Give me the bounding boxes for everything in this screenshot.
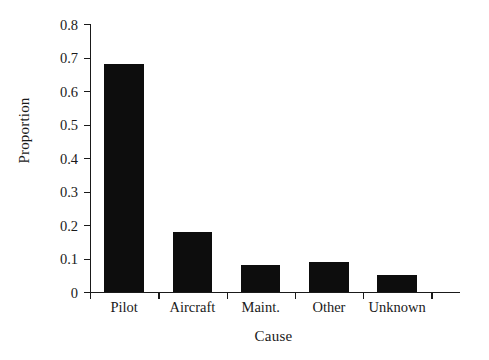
y-tick: 0.8: [84, 24, 90, 25]
bar-aircraft: [173, 232, 213, 292]
bar-unknown: [377, 275, 417, 292]
x-tick: [90, 292, 91, 299]
x-axis-line: [85, 292, 460, 293]
y-tick-label: 0.8: [60, 17, 78, 32]
x-axis-label: Unknown: [363, 300, 431, 315]
x-axis-label: Aircraft: [158, 300, 226, 315]
y-tick-label: 0.4: [60, 151, 78, 166]
plot-area: 00.10.20.30.40.50.60.70.8 PilotAircraftM…: [90, 24, 460, 292]
y-tick-label: 0.7: [60, 51, 78, 66]
x-axis-label: Maint.: [227, 300, 295, 315]
x-axis-label: Pilot: [90, 300, 158, 315]
y-tick: 0.4: [84, 158, 90, 159]
bar-pilot: [104, 64, 144, 292]
y-axis-line: [90, 24, 91, 292]
y-tick: 0.2: [84, 225, 90, 226]
y-tick-label: 0.5: [60, 118, 78, 133]
x-tick: [363, 292, 364, 299]
bar-chart: Proportion 00.10.20.30.40.50.60.70.8 Pil…: [0, 0, 489, 360]
x-axis-title-text: Cause: [196, 328, 292, 345]
y-tick-label: 0.1: [60, 252, 78, 267]
y-tick: 0.6: [84, 91, 90, 92]
y-tick-label: 0.3: [60, 185, 78, 200]
y-tick: 0.5: [84, 125, 90, 126]
x-axis-title: Cause: [0, 328, 489, 345]
y-tick: 0.3: [84, 192, 90, 193]
y-tick-label: 0.6: [60, 84, 78, 99]
y-tick: 0.1: [84, 259, 90, 260]
y-tick: 0.7: [84, 58, 90, 59]
x-tick: [431, 292, 432, 299]
bar-other: [309, 262, 349, 292]
x-tick: [295, 292, 296, 299]
x-tick: [158, 292, 159, 299]
y-axis-title: Proportion: [16, 71, 33, 191]
x-tick: [227, 292, 228, 299]
bar-maint: [241, 265, 281, 292]
y-tick-label: 0.2: [60, 218, 78, 233]
x-axis-label: Other: [295, 300, 363, 315]
y-tick-label: 0: [71, 285, 78, 300]
